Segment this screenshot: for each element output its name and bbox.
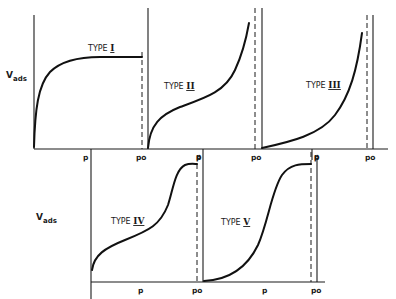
panel-5-x-label-p: p [262,286,268,295]
panel-1-title: TYPE I [87,43,114,53]
panel-3-isotherm-curve [262,33,362,148]
panel-type-5: TYPE V p po p [203,149,322,295]
y-axis-label-bottom: Vads [36,212,57,225]
panel-2-x-label-po: po [251,153,262,162]
panel-type-2: TYPE II p po [148,8,262,162]
isotherm-figure: Vads TYPE I p po TYPE II p po TYPE III p [0,0,396,299]
panel-type-4: TYPE IV p po p [92,152,203,295]
panel-3-x-label-po: po [365,153,376,162]
panel-4-title: TYPE IV [110,216,145,226]
panel-4-x-label-p: p [138,286,144,295]
panel-3-title: TYPE III [305,80,341,90]
panel-type-1: TYPE I p po [34,15,147,299]
panel-5-top-label-p: p [314,152,320,161]
y-axis-label-top: Vads [6,70,27,83]
panel-1-x-label-p: p [83,153,89,162]
panel-4-top-label-p: p [196,152,202,161]
panel-1-x-label-po: po [136,153,147,162]
panel-4-isotherm-curve [92,164,197,270]
panel-1-isotherm-curve [34,57,142,147]
panel-4-x-label-po: po [192,286,203,295]
panel-5-x-label-po: po [311,286,322,295]
panel-2-title: TYPE II [163,81,195,91]
panel-5-title: TYPE V [220,217,251,227]
panel-type-3: TYPE III p po [262,8,376,162]
